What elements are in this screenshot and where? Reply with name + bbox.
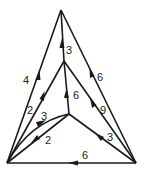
edge-weight-label: 6	[73, 89, 79, 101]
arrow-up-icon	[64, 88, 69, 98]
arrow-up-icon	[40, 91, 45, 101]
edges	[7, 10, 136, 163]
edge-weight-label: 2	[45, 134, 51, 146]
arrow-up-left-icon	[95, 133, 104, 141]
edge-weight-label: 3	[66, 44, 72, 56]
edge-m-t	[61, 10, 64, 61]
arrow-down-left-icon	[31, 135, 40, 143]
weighted-graph-diagram: 4 6 3 2 6 9 3 2 3 6	[0, 0, 144, 179]
edge-weight-label: 2	[27, 104, 33, 116]
edge-weight-label: 3	[41, 110, 47, 122]
edge-br-t	[61, 10, 136, 163]
edge-bl-m	[7, 61, 64, 163]
edge-weight-label: 6	[82, 149, 88, 161]
edge-weight-label: 6	[97, 71, 103, 83]
edge-weight-label: 3	[107, 131, 113, 143]
edge-c-m	[64, 61, 69, 114]
arrow-left-icon	[68, 161, 78, 166]
arrow-up-icon	[60, 38, 65, 48]
edge-weight-label: 9	[100, 104, 106, 116]
edge-weight-label: 4	[23, 74, 29, 86]
